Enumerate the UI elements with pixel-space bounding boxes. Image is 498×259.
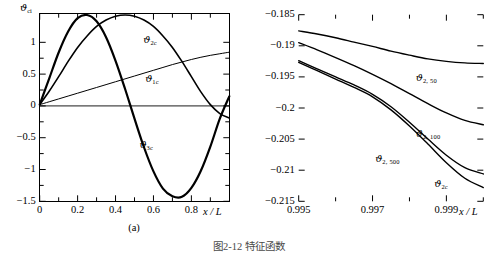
y-tick-label: −1 (6, 164, 36, 175)
plot-canvas-a (0, 0, 248, 236)
curve-label-2c: ϑ2c (434, 178, 448, 190)
panel-caption-a: (a) (94, 222, 174, 233)
tick-group-b (299, 15, 484, 202)
y-tick-label: −0.19 (253, 40, 295, 51)
curve-label-1c: ϑ1c (145, 73, 159, 85)
chart-panel-b: −0.185−0.19−0.195−0.2−0.205−0.21−0.215 0… (248, 0, 498, 236)
curve-label-2-50: ϑ2, 50 (416, 72, 437, 84)
x-tick-label: 0.6 (133, 205, 173, 216)
curve-label-2c: ϑ2c (143, 34, 157, 46)
y-tick-label: 0.5 (6, 69, 36, 80)
chart-panel-a: ϑci 10.50−0.5−1−1.5 00.20.40.60.8 x / L … (0, 0, 248, 236)
x-axis-label-a: x / L (203, 206, 222, 217)
curve-label-2-500: ϑ2, 500 (375, 153, 400, 165)
x-tick-label: 0 (20, 205, 60, 216)
y-tick-label: −0.185 (253, 9, 295, 20)
y-tick-label: 1 (6, 37, 36, 48)
curve-2-50 (299, 31, 484, 64)
y-tick-label: −0.5 (6, 132, 36, 143)
x-axis-label-b: x / L (459, 206, 478, 217)
curve-label-2-100: ϑ2, 100 (416, 128, 441, 140)
curve-label-3c: ϑ3c (139, 139, 153, 151)
x-tick-label: 0.2 (58, 205, 98, 216)
y-tick-label: −0.205 (253, 134, 295, 145)
x-tick-label: 0.4 (96, 205, 136, 216)
curve-2-100 (299, 43, 484, 125)
y-tick-label: −0.21 (253, 165, 295, 176)
y-tick-label: 0 (6, 100, 36, 111)
figure-caption: 图2-12 特征函数 (0, 238, 498, 253)
figure-root: ϑci 10.50−0.5−1−1.5 00.20.40.60.8 x / L … (0, 0, 498, 259)
curves-svg-a (0, 0, 248, 236)
y-tick-label: −0.195 (253, 71, 295, 82)
curve-2c (299, 62, 484, 187)
x-tick-label: 0.997 (353, 205, 393, 216)
x-tick-label: 0.995 (279, 205, 319, 216)
y-tick-label: −0.2 (253, 103, 295, 114)
